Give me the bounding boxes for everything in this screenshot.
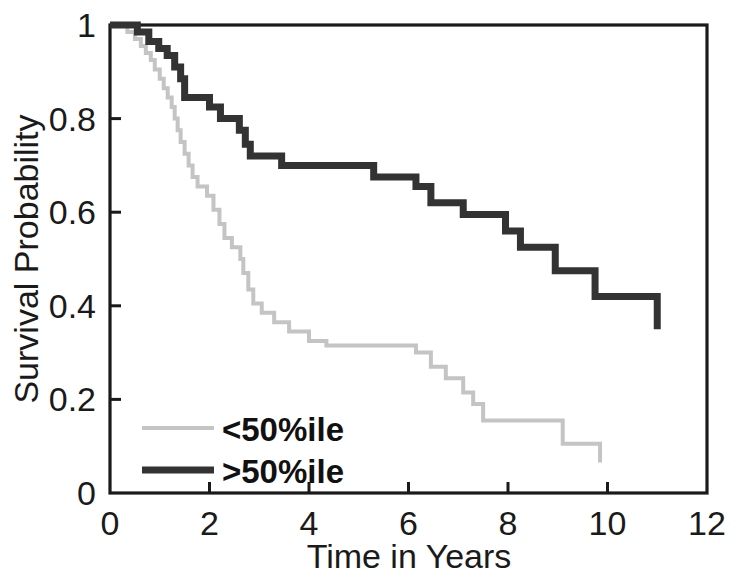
legend-label-below-median: <50%ile bbox=[222, 411, 344, 448]
x-tick-label: 0 bbox=[101, 504, 120, 542]
legend-label-above-median: >50%ile bbox=[222, 453, 344, 490]
y-tick-label: 0.6 bbox=[49, 193, 96, 231]
y-tick-label: 0.2 bbox=[49, 380, 96, 418]
y-axis-title: Survival Probability bbox=[7, 114, 45, 403]
y-tick-label: 0.4 bbox=[49, 287, 96, 325]
survival-plot-figure: 024681012 00.20.40.60.81 <50%ile>50%ile … bbox=[0, 0, 744, 582]
x-axis-title: Time in Years bbox=[307, 537, 512, 575]
survival-chart: 024681012 00.20.40.60.81 <50%ile>50%ile … bbox=[0, 0, 744, 582]
x-tick-label: 2 bbox=[200, 504, 219, 542]
y-tick-label: 0 bbox=[77, 474, 96, 512]
y-tick-label: 0.8 bbox=[49, 100, 96, 138]
x-tick-label: 10 bbox=[589, 504, 627, 542]
x-tick-label: 12 bbox=[688, 504, 726, 542]
y-tick-label: 1 bbox=[77, 6, 96, 44]
